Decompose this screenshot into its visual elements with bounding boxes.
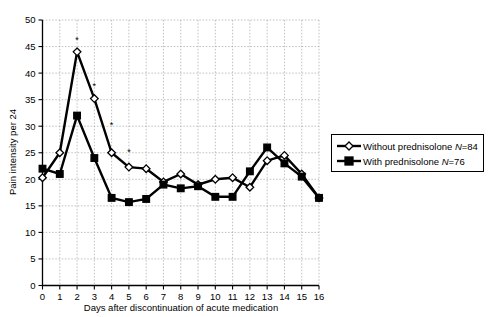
x-tick-label: 11 [228, 291, 238, 302]
x-axis-label: Days after discontinuation of acute medi… [84, 302, 278, 313]
data-point-filled-square [160, 181, 167, 188]
chart-legend: Without prednisolone N=84 With prednisol… [332, 135, 484, 172]
data-point-filled-square [316, 195, 323, 202]
x-tick-label: 15 [296, 291, 307, 302]
data-point-filled-square [281, 160, 288, 167]
legend-label-without-prednisolone: Without prednisolone N=84 [363, 141, 478, 152]
y-tick-label: 30 [25, 121, 36, 132]
x-tick-label: 14 [279, 291, 290, 302]
x-tick-label: 13 [262, 291, 273, 302]
significance-asterisk: * [93, 81, 97, 91]
data-point-filled-square [264, 144, 271, 151]
y-tick-label: 15 [25, 200, 36, 211]
y-tick-label: 5 [30, 253, 35, 264]
x-tick-label: 7 [161, 291, 166, 302]
data-point-filled-square [74, 112, 81, 119]
x-tick-label: 1 [57, 291, 62, 302]
data-point-filled-square [126, 199, 133, 206]
significance-asterisk: * [127, 147, 131, 157]
y-tick-label: 35 [25, 94, 36, 105]
data-point-filled-square [247, 168, 254, 175]
x-tick-label: 6 [144, 291, 149, 302]
x-tick-label: 3 [92, 291, 97, 302]
y-tick-label: 0 [30, 280, 35, 291]
significance-asterisk: * [75, 35, 79, 45]
x-tick-label: 2 [74, 291, 79, 302]
x-tick-label: 5 [126, 291, 131, 302]
y-tick-label: 20 [25, 174, 36, 185]
x-tick-label: 12 [245, 291, 256, 302]
data-point-filled-square [298, 173, 305, 180]
y-tick-label: 10 [25, 227, 36, 238]
x-tick-label: 4 [109, 291, 114, 302]
y-axis-label: Pain intensity per 24 [7, 109, 18, 195]
y-tick-label: 40 [25, 68, 36, 79]
data-point-filled-square [212, 194, 219, 201]
significance-asterisk: * [110, 120, 114, 130]
data-point-filled-square [143, 196, 150, 203]
data-point-filled-square [108, 195, 115, 202]
y-tick-label: 50 [25, 14, 36, 25]
x-tick-label: 8 [178, 291, 183, 302]
data-point-filled-square [177, 185, 184, 192]
y-tick-label: 25 [25, 147, 36, 158]
data-point-filled-square [229, 194, 236, 201]
data-point-filled-square [39, 165, 46, 172]
legend-label-with-prednisolone: With prednisolone N=76 [363, 156, 465, 167]
x-tick-label: 16 [314, 291, 325, 302]
x-tick-label: 10 [210, 291, 221, 302]
x-tick-label: 0 [40, 291, 45, 302]
y-tick-label: 45 [25, 41, 36, 52]
data-point-filled-square [91, 155, 98, 162]
x-tick-label: 9 [195, 291, 200, 302]
data-point-filled-square [56, 171, 63, 178]
pain-intensity-line-chart: 05101520253035404550 0123456789101112131… [0, 0, 490, 317]
legend-marker-filled-square [345, 157, 353, 165]
data-point-filled-square [195, 183, 202, 190]
